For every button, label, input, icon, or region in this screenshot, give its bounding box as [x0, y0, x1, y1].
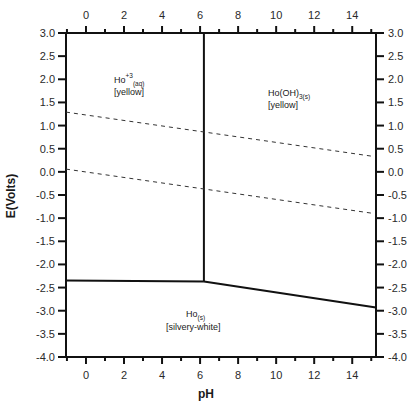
x-tick-label-top: 0 — [83, 9, 89, 21]
x-tick-label-top: 10 — [270, 9, 282, 21]
region-note-hooh3: [yellow] — [268, 100, 298, 110]
y-tick-label-right: -2.5 — [388, 282, 407, 294]
water-stability-line — [66, 169, 371, 213]
y-tick-label-left: 1.5 — [40, 96, 55, 108]
x-tick-label-bottom: 8 — [235, 369, 241, 381]
y-tick-label-right: -3.0 — [388, 305, 407, 317]
y-tick-label-left: 1.0 — [40, 120, 55, 132]
y-tick-label-left: 0.5 — [40, 143, 55, 155]
pourbaix-diagram: 00224466881010121214143.03.02.52.52.02.0… — [0, 0, 419, 411]
plot-frame — [66, 33, 376, 357]
y-tick-label-right: 2.0 — [388, 73, 403, 85]
y-tick-label-left: -3.5 — [36, 328, 55, 340]
y-tick-label-right: -2.0 — [388, 258, 407, 270]
y-tick-label-left: 2.0 — [40, 73, 55, 85]
y-axis-title: E(Volts) — [4, 174, 18, 218]
x-tick-label-bottom: 2 — [121, 369, 127, 381]
x-tick-label-top: 2 — [121, 9, 127, 21]
y-tick-label-right: -1.0 — [388, 212, 407, 224]
x-tick-label-bottom: 0 — [83, 369, 89, 381]
x-tick-label-bottom: 10 — [270, 369, 282, 381]
y-tick-label-left: -0.5 — [36, 189, 55, 201]
y-tick-label-left: 2.5 — [40, 50, 55, 62]
x-tick-label-top: 14 — [346, 9, 358, 21]
y-tick-label-left: -3.0 — [36, 305, 55, 317]
x-tick-label-bottom: 4 — [159, 369, 165, 381]
phase-boundary-line — [204, 282, 376, 308]
y-tick-label-right: -4.0 — [388, 351, 407, 363]
y-tick-label-right: -1.5 — [388, 235, 407, 247]
water-stability-line — [66, 112, 371, 156]
y-tick-label-right: 1.5 — [388, 96, 403, 108]
phase-boundary-line — [66, 281, 204, 282]
y-tick-label-left: -4.0 — [36, 351, 55, 363]
plot-border — [66, 33, 376, 357]
y-tick-label-right: 0.0 — [388, 166, 403, 178]
x-tick-label-bottom: 12 — [308, 369, 320, 381]
x-axis-title: pH — [198, 387, 214, 401]
y-tick-label-right: 0.5 — [388, 143, 403, 155]
y-tick-label-right: 1.0 — [388, 120, 403, 132]
region-note-ho3plus: [yellow] — [114, 87, 144, 97]
x-tick-label-bottom: 6 — [197, 369, 203, 381]
y-tick-label-left: -1.5 — [36, 235, 55, 247]
boundary-lines — [66, 33, 376, 308]
region-label-ho-solid: Ho(s) — [186, 309, 205, 322]
y-tick-label-left: 0.0 — [40, 166, 55, 178]
y-tick-label-left: -2.5 — [36, 282, 55, 294]
x-tick-label-bottom: 14 — [346, 369, 358, 381]
x-tick-label-top: 12 — [308, 9, 320, 21]
y-tick-label-right: -3.5 — [388, 328, 407, 340]
y-tick-label-right: 2.5 — [388, 50, 403, 62]
region-label-ho3plus: Ho+3(aq) — [114, 72, 145, 88]
y-tick-label-right: -0.5 — [388, 189, 407, 201]
y-tick-label-right: 3.0 — [388, 27, 403, 39]
x-tick-label-top: 6 — [197, 9, 203, 21]
x-tick-label-top: 4 — [159, 9, 165, 21]
region-note-ho-solid: [silvery-white] — [166, 322, 221, 332]
axis-ticks: 00224466881010121214143.03.02.52.52.02.0… — [36, 9, 407, 381]
y-tick-label-left: 3.0 — [40, 27, 55, 39]
x-tick-label-top: 8 — [235, 9, 241, 21]
y-tick-label-left: -1.0 — [36, 212, 55, 224]
y-tick-label-left: -2.0 — [36, 258, 55, 270]
